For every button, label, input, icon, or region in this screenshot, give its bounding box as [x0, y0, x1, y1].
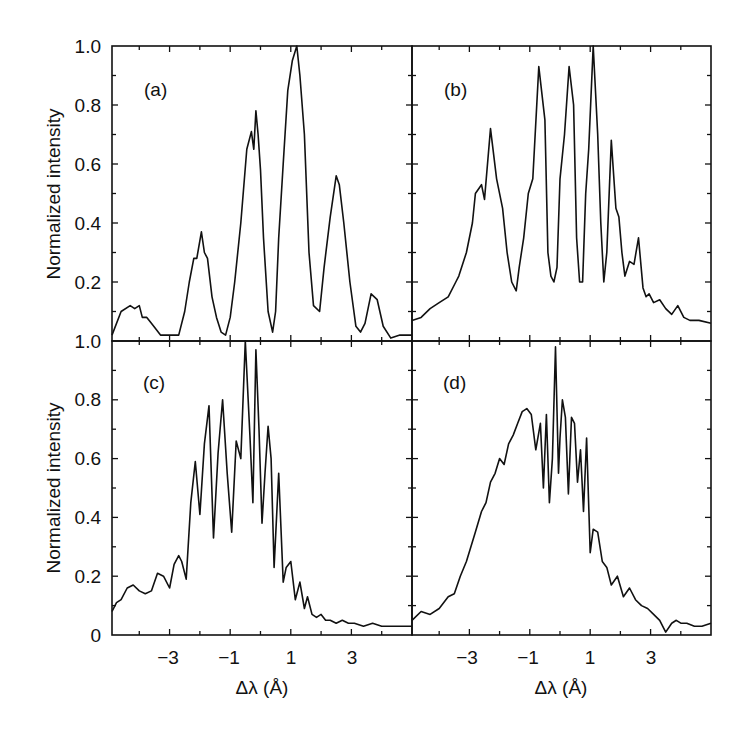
y-tick-label: 0.8 [75, 95, 101, 116]
x-tick-label: −1 [517, 647, 539, 668]
panel-label-b: (b) [444, 79, 467, 100]
x-tick-label: −1 [218, 647, 240, 668]
y-tick-label: 0.2 [75, 272, 101, 293]
y-tick-label: 1.0 [75, 331, 101, 352]
y-tick-label: 0.4 [75, 213, 102, 234]
y-tick-label: 0.4 [75, 507, 102, 528]
x-tick-label: −3 [456, 647, 478, 668]
x-axis-title-right: Δλ (Å) [535, 677, 588, 698]
x-tick-label: 3 [347, 647, 358, 668]
figure: (a) (b) (c) (d) 1.0 0.8 0.6 0.4 0.2 1.0 … [0, 0, 749, 737]
y-axis-title-bottom: Normalized intensity [43, 402, 64, 574]
x-axis-title-left: Δλ (Å) [236, 677, 289, 698]
x-tick-label: 1 [286, 647, 297, 668]
panel-label-c: (c) [143, 372, 165, 393]
y-tick-label: 0.6 [75, 154, 101, 175]
y-tick-label: 0.6 [75, 448, 101, 469]
y-axis-title-top: Normalized intensity [43, 108, 64, 280]
x-tick-label: 3 [646, 647, 657, 668]
panel-label-d: (d) [443, 372, 466, 393]
x-tick-label: −3 [157, 647, 179, 668]
y-tick-label: 0.2 [75, 566, 101, 587]
chart-canvas: (a) (b) (c) (d) 1.0 0.8 0.6 0.4 0.2 1.0 … [0, 0, 749, 737]
y-tick-label: 0.8 [75, 389, 101, 410]
y-tick-label: 0 [90, 625, 101, 646]
y-tick-label: 1.0 [75, 36, 101, 57]
x-tick-label: 1 [585, 647, 596, 668]
panel-label-a: (a) [144, 79, 167, 100]
